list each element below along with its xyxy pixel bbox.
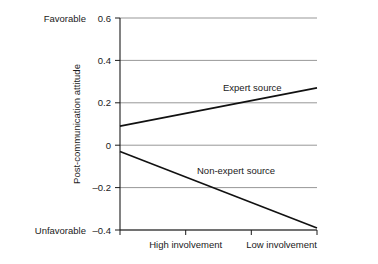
- series-annotation-non-expert-source: Non-expert source: [197, 165, 275, 176]
- y-tick-label-1: 0.4: [98, 55, 111, 66]
- series-line-non-expert-source: [120, 152, 317, 228]
- y-tick-marks: [115, 18, 120, 230]
- y-tick-label-4: –0.2: [93, 182, 112, 193]
- y-tick-labels: 0.6 0.4 0.2 0 –0.2 –0.4: [93, 13, 112, 236]
- unfavorable-label: Unfavorable: [35, 225, 86, 236]
- favorable-label: Favorable: [44, 13, 86, 24]
- y-tick-label-0: 0.6: [98, 13, 111, 24]
- y-tick-label-2: 0.2: [98, 97, 111, 108]
- x-category-label-high: High involvement: [149, 239, 222, 250]
- gridlines: [120, 18, 317, 230]
- x-tick-marks: [120, 230, 317, 235]
- x-category-label-low: Low involvement: [246, 239, 317, 250]
- series-annotation-expert-source: Expert source: [223, 82, 282, 93]
- series-line-expert-source: [120, 88, 317, 126]
- y-axis-title: Post-communication attitude: [71, 64, 82, 184]
- y-tick-label-5: –0.4: [93, 225, 112, 236]
- chart-figure: 0.6 0.4 0.2 0 –0.2 –0.4 Favorable Unfavo…: [0, 0, 378, 264]
- line-chart: 0.6 0.4 0.2 0 –0.2 –0.4 Favorable Unfavo…: [0, 0, 378, 264]
- y-tick-label-3: 0: [106, 140, 111, 151]
